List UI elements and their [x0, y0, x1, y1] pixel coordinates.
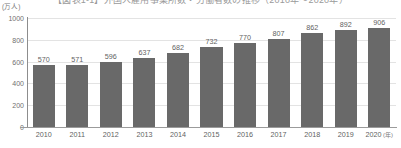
x-tick-label: 2018	[295, 130, 329, 139]
bar[interactable]	[234, 43, 256, 127]
x-axis-line	[20, 127, 397, 128]
x-tick-label: 2014	[161, 130, 195, 139]
y-tick-label: 200	[0, 102, 24, 109]
bar-value-label: 807	[262, 29, 296, 38]
x-tick-label: 2013	[128, 130, 162, 139]
x-axis-tick-labels: 2010201120122013201420152016201720182019…	[27, 130, 396, 139]
bar-series: 570571596637682732770807862892906	[27, 18, 396, 127]
bar-slot: 596	[94, 18, 128, 127]
y-tick-label: 800	[0, 36, 24, 43]
bar-slot: 637	[128, 18, 162, 127]
bar-value-label: 637	[128, 48, 162, 57]
bar-value-label: 892	[329, 20, 363, 29]
bar-value-label: 596	[94, 52, 128, 61]
bar-slot: 906	[362, 18, 396, 127]
y-tick-label: 400	[0, 80, 24, 87]
y-tick-label: 1000	[0, 15, 24, 22]
y-tick-label: 600	[0, 58, 24, 65]
bar-slot: 571	[61, 18, 95, 127]
bar-value-label: 770	[228, 33, 262, 42]
x-tick-label: 2010	[27, 130, 61, 139]
x-tick-label: 2012	[94, 130, 128, 139]
x-tick-label: 2016	[228, 130, 262, 139]
bar[interactable]	[268, 39, 290, 127]
x-tick-label: 2015	[195, 130, 229, 139]
bar-chart: 【図表1-1】外国人雇用事業所数・労働者数の推移（2010年～2020年） (万…	[0, 0, 401, 148]
bar-slot: 770	[228, 18, 262, 127]
x-tick-label: 2017	[262, 130, 296, 139]
chart-title: 【図表1-1】外国人雇用事業所数・労働者数の推移（2010年～2020年）	[0, 0, 401, 6]
bar[interactable]	[200, 47, 222, 127]
bar-value-label: 732	[195, 37, 229, 46]
x-tick-label: 2011	[61, 130, 95, 139]
bar[interactable]	[335, 30, 357, 127]
bar[interactable]	[100, 62, 122, 127]
bar-slot: 682	[161, 18, 195, 127]
bar-value-label: 571	[61, 55, 95, 64]
bar-value-label: 906	[362, 18, 396, 27]
bar-slot: 732	[195, 18, 229, 127]
bar[interactable]	[66, 65, 88, 127]
x-tick-label: 2020 (年)	[362, 130, 396, 139]
bar-value-label: 570	[27, 55, 61, 64]
y-axis-unit-label: (万人)	[2, 1, 20, 11]
bar-slot: 892	[329, 18, 363, 127]
bar[interactable]	[368, 28, 390, 127]
bar[interactable]	[167, 53, 189, 127]
bar-slot: 570	[27, 18, 61, 127]
bar-value-label: 862	[295, 23, 329, 32]
x-tick-label: 2019	[329, 130, 363, 139]
bar[interactable]	[301, 33, 323, 127]
bar-slot: 807	[262, 18, 296, 127]
bar-slot: 862	[295, 18, 329, 127]
y-axis-tick-labels: 10008006004002000	[0, 18, 24, 127]
bar[interactable]	[33, 65, 55, 127]
x-axis-unit-label: (年)	[381, 132, 393, 138]
bar-value-label: 682	[161, 43, 195, 52]
bar[interactable]	[133, 58, 155, 127]
